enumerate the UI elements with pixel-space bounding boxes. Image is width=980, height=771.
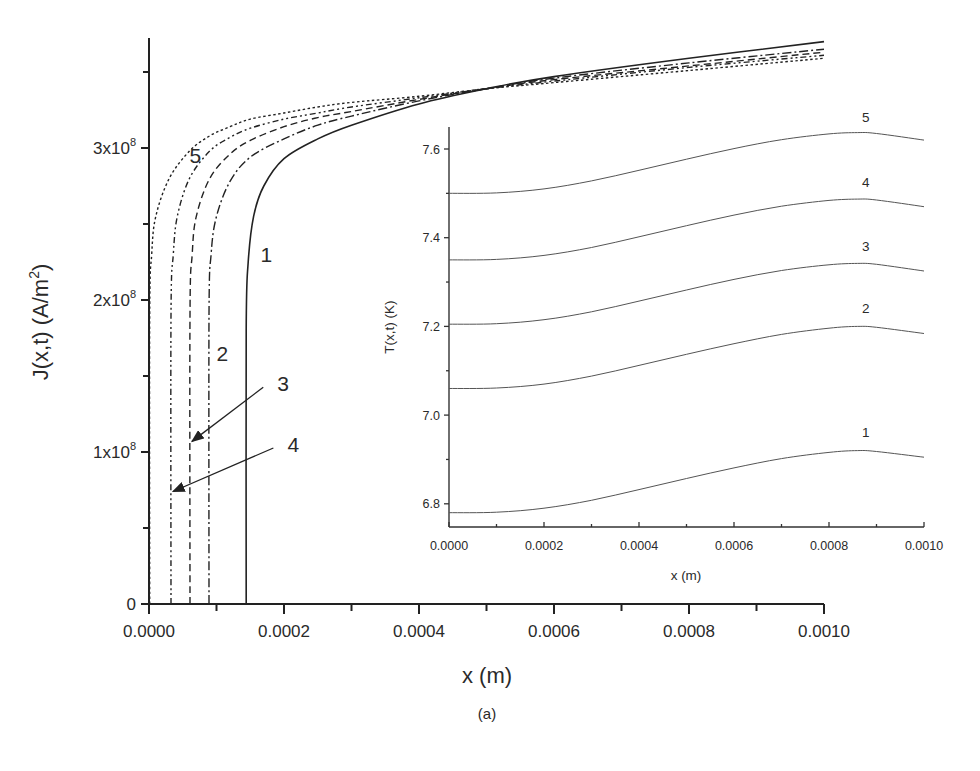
figure-caption: (a) bbox=[478, 705, 496, 722]
inset-y-tick-label: 7.6 bbox=[423, 143, 440, 157]
inset-annotations: 12345 bbox=[862, 110, 870, 440]
y-title-main: J(x,t) (A/m bbox=[28, 279, 53, 380]
curve-4 bbox=[171, 55, 824, 604]
inset-curve-label-2: 2 bbox=[862, 301, 870, 316]
inset-curve-4 bbox=[449, 199, 924, 260]
y-title-close: ) bbox=[28, 264, 53, 271]
inset-curve-label-5: 5 bbox=[862, 110, 870, 125]
main-x-axis-title: x (m) bbox=[462, 663, 512, 688]
inset-y-tick-label: 7.0 bbox=[423, 409, 440, 423]
inset-curve-label-1: 1 bbox=[862, 425, 870, 440]
inset-x-tick-label: 0.0004 bbox=[620, 539, 658, 553]
inset-x-tick-label: 0.0000 bbox=[430, 539, 468, 553]
inset-y-tick-label: 6.8 bbox=[423, 497, 440, 511]
inset-x-tick-label: 0.0010 bbox=[905, 539, 943, 553]
arrow-3 bbox=[192, 387, 263, 441]
x-tick-label: 0.0000 bbox=[123, 622, 175, 641]
curve-3 bbox=[190, 52, 824, 604]
inset-x-tick-label: 0.0008 bbox=[810, 539, 848, 553]
inset-x-tick-label: 0.0002 bbox=[525, 539, 563, 553]
x-tick-label: 0.0010 bbox=[798, 622, 850, 641]
inset-curve-5 bbox=[449, 132, 924, 193]
inset-x-tick-label: 0.0006 bbox=[715, 539, 753, 553]
inset-curve-1 bbox=[449, 450, 924, 512]
inset-curve-label-4: 4 bbox=[862, 175, 870, 190]
main-y-ticks: 01x1082x1083x108 bbox=[93, 72, 149, 614]
x-tick-label: 0.0002 bbox=[258, 622, 310, 641]
curve-1 bbox=[246, 42, 824, 604]
curve-label-3: 3 bbox=[277, 372, 289, 395]
x-tick-label: 0.0006 bbox=[528, 622, 580, 641]
curve-label-5: 5 bbox=[190, 144, 202, 167]
x-tick-label: 0.0004 bbox=[393, 622, 445, 641]
y-tick-label: 1x108 bbox=[93, 440, 136, 462]
x-tick-label: 0.0008 bbox=[663, 622, 715, 641]
main-annotations: 12345 bbox=[173, 144, 299, 491]
inset-y-tick-label: 7.2 bbox=[423, 320, 440, 334]
inset-y-ticks: 6.87.07.27.47.6 bbox=[423, 143, 449, 512]
y-title-superscript: 2 bbox=[26, 271, 42, 279]
curve-label-1: 1 bbox=[260, 243, 272, 266]
inset-plot: 6.87.07.27.47.6 0.00000.00020.00040.0006… bbox=[382, 110, 943, 583]
figure: 01x1082x1083x108 0.00000.00020.00040.000… bbox=[0, 0, 980, 771]
inset-curve-2 bbox=[449, 326, 924, 388]
main-y-axis-title: J(x,t) (A/m2) bbox=[26, 264, 53, 381]
main-plot: 01x1082x1083x108 0.00000.00020.00040.000… bbox=[26, 38, 850, 688]
inset-x-axis-title: x (m) bbox=[671, 568, 702, 583]
curve-label-4: 4 bbox=[287, 433, 299, 456]
inset-y-axis-title: T(x,t) (K) bbox=[382, 300, 397, 353]
inset-curve-label-3: 3 bbox=[862, 239, 870, 254]
inset-curve-3 bbox=[449, 263, 924, 324]
y-tick-label: 2x108 bbox=[93, 288, 136, 310]
inset-y-tick-label: 7.4 bbox=[423, 231, 440, 245]
curve-2 bbox=[209, 49, 824, 604]
arrow-4 bbox=[173, 448, 273, 492]
main-x-ticks: 0.00000.00020.00040.00060.00080.0010 bbox=[123, 604, 850, 641]
y-tick-label: 3x108 bbox=[93, 136, 136, 158]
curve-label-2: 2 bbox=[217, 342, 229, 365]
y-tick-label: 0 bbox=[127, 595, 136, 614]
inset-curves bbox=[449, 132, 924, 512]
main-curves bbox=[150, 42, 824, 604]
